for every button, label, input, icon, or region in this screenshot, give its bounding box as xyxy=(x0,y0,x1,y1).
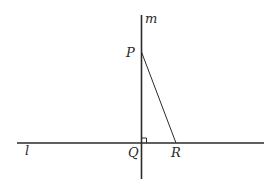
label-p: P xyxy=(125,45,135,60)
label-l: l xyxy=(25,143,29,158)
label-r: R xyxy=(170,145,181,160)
geometry-diagram: m l P Q R xyxy=(0,0,274,187)
label-m: m xyxy=(145,11,157,26)
segment-pr xyxy=(142,52,177,143)
label-q: Q xyxy=(128,145,139,160)
